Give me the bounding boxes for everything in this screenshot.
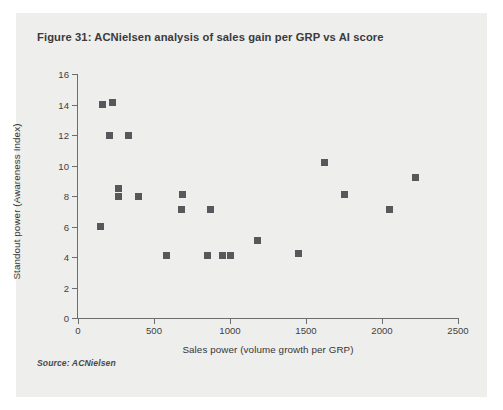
y-tick-label-6: 6 — [64, 221, 69, 232]
x-axis-line — [77, 318, 459, 319]
y-tick-4 — [72, 257, 78, 258]
data-point — [341, 191, 348, 198]
y-axis-title: Standout power (Awareness Index) — [11, 80, 22, 324]
y-tick-label-10: 10 — [58, 160, 69, 171]
y-tick-label-16: 16 — [58, 69, 69, 80]
y-tick-16 — [72, 74, 78, 75]
data-point — [254, 237, 261, 244]
y-tick-label-0: 0 — [64, 313, 69, 324]
y-tick-label-2: 2 — [64, 282, 69, 293]
x-axis-title: Sales power (volume growth per GRP) — [78, 344, 458, 355]
x-tick-2000 — [382, 318, 383, 324]
y-tick-label-4: 4 — [64, 252, 69, 263]
y-tick-10 — [72, 166, 78, 167]
y-tick-label-12: 12 — [58, 130, 69, 141]
data-point — [386, 206, 393, 213]
x-tick-1500 — [306, 318, 307, 324]
scatter-plot-area: 0246810121416 05001000150020002500 Stand… — [78, 74, 458, 318]
data-point — [227, 252, 234, 259]
data-point — [163, 252, 170, 259]
data-point — [179, 191, 186, 198]
figure-card: Figure 31: ACNielsen analysis of sales g… — [17, 14, 486, 396]
y-tick-14 — [72, 105, 78, 106]
y-tick-2 — [72, 288, 78, 289]
x-tick-500 — [154, 318, 155, 324]
data-point — [412, 174, 419, 181]
x-tick-1000 — [230, 318, 231, 324]
y-tick-label-8: 8 — [64, 191, 69, 202]
data-point — [295, 250, 302, 257]
data-point — [115, 185, 122, 192]
x-tick-label-2000: 2000 — [371, 325, 392, 336]
data-point — [106, 132, 113, 139]
data-point — [219, 252, 226, 259]
source-note: Source: ACNielsen — [37, 358, 116, 368]
data-point — [321, 159, 328, 166]
x-tick-2500 — [458, 318, 459, 324]
data-point — [178, 206, 185, 213]
data-point — [207, 206, 214, 213]
data-point — [204, 252, 211, 259]
y-tick-label-14: 14 — [58, 99, 69, 110]
data-point — [125, 132, 132, 139]
x-tick-label-1000: 1000 — [219, 325, 240, 336]
y-tick-8 — [72, 196, 78, 197]
x-tick-label-0: 0 — [75, 325, 80, 336]
data-point — [115, 193, 122, 200]
data-point — [109, 99, 116, 106]
x-tick-0 — [78, 318, 79, 324]
data-point — [135, 193, 142, 200]
x-tick-label-2500: 2500 — [447, 325, 468, 336]
x-tick-label-1500: 1500 — [295, 325, 316, 336]
y-tick-6 — [72, 227, 78, 228]
data-point — [97, 223, 104, 230]
page-title: Figure 31: ACNielsen analysis of sales g… — [37, 31, 467, 43]
x-tick-label-500: 500 — [146, 325, 162, 336]
data-point — [99, 101, 106, 108]
y-tick-12 — [72, 135, 78, 136]
